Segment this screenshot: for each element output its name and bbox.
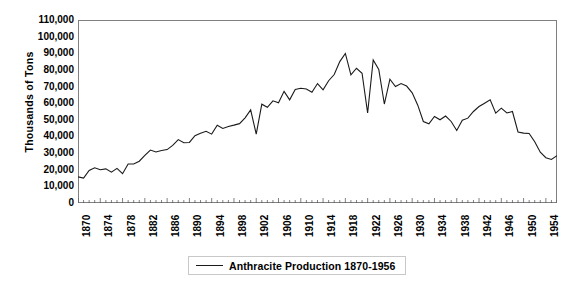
x-axis-tick-label: 1894: [216, 215, 226, 237]
x-axis-tick-label: 1930: [416, 215, 426, 237]
x-axis-tick-label: 1902: [260, 215, 270, 237]
y-axis-tick-label: 30,000: [10, 148, 74, 158]
y-axis-tick-label: 60,000: [10, 98, 74, 108]
x-axis-tick-label: 1910: [305, 215, 315, 237]
y-axis-tick-label: 10,000: [10, 181, 74, 191]
x-axis-tick-label: 1938: [461, 215, 471, 237]
plot-area: [78, 20, 557, 203]
y-axis-tick-label: 40,000: [10, 131, 74, 141]
chart-container: Thousands of Tons 110,000100,00090,00080…: [0, 0, 570, 283]
x-axis-tick-label: 1878: [127, 215, 137, 237]
x-axis-tick-label: 1874: [104, 215, 114, 237]
y-axis-tick-label: 20,000: [10, 165, 74, 175]
y-axis-tick-label: 110,000: [10, 15, 74, 25]
x-axis-tick-label: 1922: [372, 215, 382, 237]
x-axis-tick-label: 1934: [438, 215, 448, 237]
x-axis-tick-label: 1946: [505, 215, 515, 237]
x-axis-tick-label: 1906: [283, 215, 293, 237]
x-axis-tick-label: 1950: [528, 215, 538, 237]
y-axis-tick-label: 90,000: [10, 48, 74, 58]
x-axis-tick-label: 1942: [483, 215, 493, 237]
x-axis-tick-labels: 1870187418781882188618901894189819021906…: [78, 203, 557, 255]
y-axis-tick-labels: 110,000100,00090,00080,00070,00060,00050…: [8, 0, 74, 283]
x-axis-tick-label: 1914: [327, 215, 337, 237]
legend-entry-label: Anthracite Production 1870-1956: [229, 260, 396, 272]
legend: Anthracite Production 1870-1956: [188, 256, 406, 275]
y-axis-tick-label: 50,000: [10, 115, 74, 125]
x-axis-tick-label: 1926: [394, 215, 404, 237]
x-axis-tick-label: 1882: [149, 215, 159, 237]
x-axis-tick-label: 1890: [193, 215, 203, 237]
x-axis-tick-label: 1886: [171, 215, 181, 237]
x-axis-tick-label: 1898: [238, 215, 248, 237]
x-axis-tick-label: 1870: [82, 215, 92, 237]
data-line: [78, 53, 557, 178]
series-line-anthracite-production: [78, 20, 557, 203]
y-axis-tick-label: 0: [10, 198, 74, 208]
x-axis-tick-label: 1954: [550, 215, 560, 237]
x-axis-tick-label: 1918: [349, 215, 359, 237]
y-axis-tick-label: 70,000: [10, 82, 74, 92]
legend-line-swatch: [196, 265, 223, 266]
y-axis-tick-label: 80,000: [10, 65, 74, 75]
y-axis-tick-label: 100,000: [10, 32, 74, 42]
